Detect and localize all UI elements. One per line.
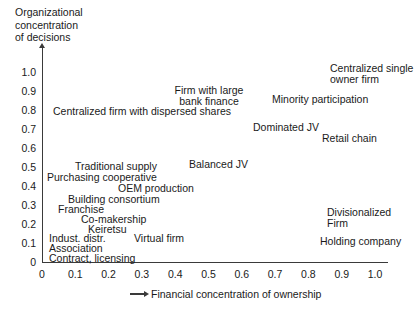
data-point-label: Centralized firm with dispersed shares — [53, 106, 231, 117]
y-tick-label: 0.6 — [12, 143, 36, 154]
y-tick-label: 0.2 — [12, 219, 36, 230]
data-point-label: Balanced JV — [189, 159, 248, 170]
x-tick-label: 0.7 — [260, 269, 290, 280]
y-tick-label: 0.5 — [12, 162, 36, 173]
data-point-label: Contract, licensing — [49, 253, 135, 264]
x-tick-label: 0.4 — [160, 269, 190, 280]
x-tick-label: 0.2 — [94, 269, 124, 280]
y-tick-label: 0.9 — [12, 86, 36, 97]
y-tick-label: 0.4 — [12, 181, 36, 192]
x-axis-title-text: Financial concentration of ownership — [151, 288, 321, 300]
data-point-label-line: Virtual firm — [134, 233, 184, 244]
data-point-label: DivisionalizedFirm — [327, 207, 391, 230]
y-tick-label: 0.1 — [12, 238, 36, 249]
x-tick-label: 0.1 — [60, 269, 90, 280]
y-axis-line — [42, 66, 43, 263]
y-tick-label: 0.3 — [12, 200, 36, 211]
data-point-label: Centralized singleowner firm — [330, 63, 413, 86]
right-arrow-icon — [130, 293, 145, 294]
data-point-label-line: Firm — [327, 218, 391, 229]
data-point-label-line: owner firm — [330, 74, 413, 85]
x-tick-label: 0.8 — [293, 269, 323, 280]
data-point-label-line: Holding company — [320, 236, 401, 247]
data-point-label-line: Minority participation — [272, 94, 368, 105]
data-point-label-line: Dominated JV — [253, 122, 319, 133]
chart-canvas: Organizational concentration of decision… — [0, 0, 416, 313]
y-axis-ticks: 00.10.20.30.40.50.60.70.80.91.0 — [8, 0, 36, 313]
data-point-label-line: Centralized firm with dispersed shares — [53, 106, 231, 117]
x-axis-title: Financial concentration of ownership — [130, 288, 321, 300]
data-point-label: Virtual firm — [134, 233, 184, 244]
y-tick-label: 1.0 — [12, 67, 36, 78]
x-tick-label: 1.0 — [360, 269, 390, 280]
x-tick-label: 0.3 — [127, 269, 157, 280]
y-tick-label: 0 — [12, 257, 36, 268]
y-tick-label: 0.7 — [12, 124, 36, 135]
x-tick-label: 0.9 — [327, 269, 357, 280]
data-point-label: Minority participation — [272, 94, 368, 105]
data-point-label: Retail chain — [322, 133, 377, 144]
x-tick-label: 0.6 — [227, 269, 257, 280]
y-tick-label: 0.8 — [12, 105, 36, 116]
y-axis-arrow-icon — [42, 47, 43, 66]
data-point-label-line: Contract, licensing — [49, 253, 135, 264]
x-axis-ticks: 00.10.20.30.40.50.60.70.80.91.0 — [0, 269, 416, 283]
data-point-label: Dominated JV — [253, 122, 319, 133]
data-point-label-line: Retail chain — [322, 133, 377, 144]
data-point-label: Holding company — [320, 236, 401, 247]
x-tick-label: 0.5 — [194, 269, 224, 280]
x-tick-label: 0 — [27, 269, 57, 280]
data-point-label-line: Balanced JV — [189, 159, 248, 170]
